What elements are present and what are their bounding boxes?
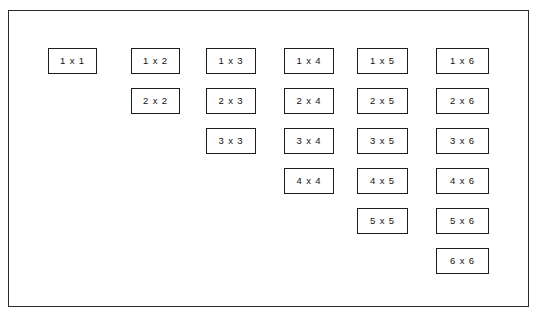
rect-box-2x6[interactable]: 2 x 6 [436,88,489,114]
rect-box-label: 2 x 3 [218,96,243,106]
rect-box-label: 3 x 5 [370,136,395,146]
rect-box-label: 2 x 6 [450,96,475,106]
rect-box-label: 3 x 4 [296,136,321,146]
rect-box-1x1[interactable]: 1 x 1 [48,48,97,74]
rect-box-3x3[interactable]: 3 x 3 [206,128,256,154]
rect-box-label: 1 x 1 [60,56,85,66]
rect-box-label: 2 x 4 [296,96,321,106]
rect-box-label: 2 x 5 [370,96,395,106]
rect-box-label: 4 x 5 [370,176,395,186]
rect-box-1x4[interactable]: 1 x 4 [284,48,334,74]
rect-box-2x3[interactable]: 2 x 3 [206,88,256,114]
rect-box-5x6[interactable]: 5 x 6 [436,208,489,234]
rect-box-4x4[interactable]: 4 x 4 [284,168,334,194]
rect-box-4x6[interactable]: 4 x 6 [436,168,489,194]
rect-box-3x4[interactable]: 3 x 4 [284,128,334,154]
outer-frame: 1 x 11 x 22 x 21 x 32 x 33 x 31 x 42 x 4… [8,10,529,307]
rect-box-3x5[interactable]: 3 x 5 [357,128,408,154]
rect-box-1x5[interactable]: 1 x 5 [357,48,408,74]
rect-box-label: 1 x 5 [370,56,395,66]
rect-box-label: 6 x 6 [450,256,475,266]
rect-box-label: 1 x 6 [450,56,475,66]
rect-box-6x6[interactable]: 6 x 6 [436,248,489,274]
rect-box-2x4[interactable]: 2 x 4 [284,88,334,114]
rect-box-label: 1 x 3 [218,56,243,66]
rect-box-label: 4 x 6 [450,176,475,186]
rect-box-5x5[interactable]: 5 x 5 [357,208,408,234]
rect-box-label: 3 x 6 [450,136,475,146]
rect-box-3x6[interactable]: 3 x 6 [436,128,489,154]
rect-box-2x2[interactable]: 2 x 2 [131,88,180,114]
rect-box-label: 5 x 5 [370,216,395,226]
rect-box-4x5[interactable]: 4 x 5 [357,168,408,194]
rect-box-label: 3 x 3 [218,136,243,146]
rect-box-label: 2 x 2 [143,96,168,106]
rect-box-2x5[interactable]: 2 x 5 [357,88,408,114]
rect-box-label: 1 x 4 [296,56,321,66]
rect-box-1x6[interactable]: 1 x 6 [436,48,489,74]
rect-box-label: 4 x 4 [296,176,321,186]
rect-box-1x3[interactable]: 1 x 3 [206,48,256,74]
rect-box-label: 1 x 2 [143,56,168,66]
diagram-canvas: 1 x 11 x 22 x 21 x 32 x 33 x 31 x 42 x 4… [0,0,537,319]
rect-box-1x2[interactable]: 1 x 2 [131,48,180,74]
rect-box-label: 5 x 6 [450,216,475,226]
